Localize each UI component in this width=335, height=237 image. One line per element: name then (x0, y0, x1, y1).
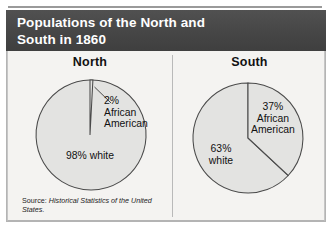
pie-chart-south (173, 51, 326, 221)
pie-label-north-white: 98% white (42, 150, 138, 162)
pie-label-north-aa-pct: 2% (104, 95, 148, 107)
top-rule-divider (8, 6, 322, 8)
pie-label-north-aa-name-1: African (104, 107, 148, 119)
source-label: Source: (22, 196, 47, 205)
pie-chart-south-svg (173, 51, 326, 221)
pie-label-south-aa-name-2: American (251, 124, 295, 136)
figure-populations-north-south-1860: Populations of the North and South in 18… (0, 0, 335, 237)
pie-label-south-white-name: white (193, 155, 249, 167)
pie-label-south-white: 63% white (193, 143, 249, 166)
pie-label-north-aa-name-2: American (104, 118, 148, 130)
panel-south: South 37% African American 63% white (173, 51, 326, 221)
pie-label-south-aa-name-1: African (251, 113, 295, 125)
source-citation: Source: Historical Statistics of the Uni… (22, 196, 172, 214)
pie-label-south-white-pct: 63% (193, 143, 249, 155)
pie-label-south-aa-pct: 37% (251, 101, 295, 113)
figure-title-bar: Populations of the North and South in 18… (6, 10, 326, 51)
figure-title-line-2: South in 1860 (17, 31, 316, 48)
figure-title-line-1: Populations of the North and (17, 14, 316, 31)
pie-label-north-african-american: 2% African American (104, 95, 148, 130)
pie-label-south-african-american: 37% African American (251, 101, 295, 136)
